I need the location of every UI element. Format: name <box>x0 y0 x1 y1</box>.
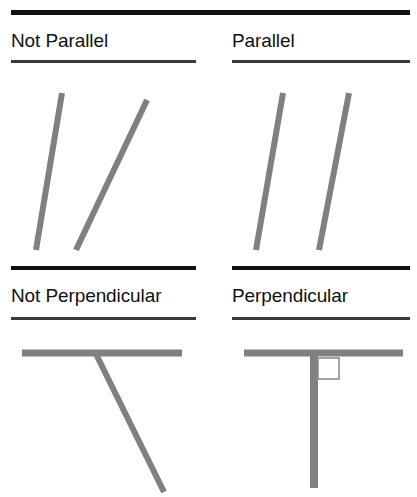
line-segment-b <box>319 93 349 250</box>
heading-perpendicular: Perpendicular <box>232 286 348 305</box>
line-segment-a <box>36 93 62 250</box>
line-segment-oblique <box>96 354 164 492</box>
heading-not-parallel: Not Parallel <box>11 31 108 50</box>
parallel-perpendicular-figure: Not Parallel Parallel Not Perpendicular … <box>0 0 417 497</box>
diagram-perpendicular <box>209 330 417 497</box>
diagram-parallel <box>209 70 417 266</box>
line-segment-a <box>256 93 283 250</box>
heading-parallel: Parallel <box>232 31 295 50</box>
heading-underline-perpendicular <box>232 317 410 320</box>
line-segment-b <box>76 100 147 250</box>
middle-divider-bar-left <box>11 266 196 270</box>
heading-underline-not-perpendicular <box>11 317 196 320</box>
diagram-not-perpendicular <box>0 330 208 497</box>
diagram-not-parallel <box>0 70 208 266</box>
heading-underline-not-parallel <box>11 60 196 63</box>
heading-not-perpendicular: Not Perpendicular <box>11 286 161 305</box>
heading-underline-parallel <box>232 60 410 63</box>
right-angle-marker-icon <box>318 358 339 379</box>
top-divider-bar <box>11 10 410 15</box>
middle-divider-bar-right <box>232 266 410 270</box>
